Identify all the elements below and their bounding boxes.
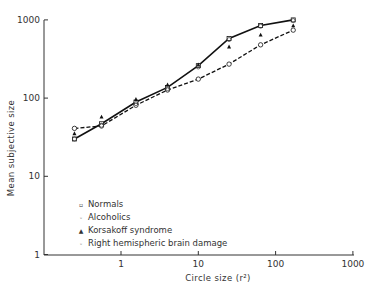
y-axis-title: Mean subjective size bbox=[6, 100, 16, 196]
data-point bbox=[72, 126, 76, 130]
x-tick-label: 10 bbox=[193, 259, 205, 269]
legend: ▫ Normals ◦ Alcoholics ▲ Korsakoff syndr… bbox=[77, 198, 227, 250]
data-point bbox=[259, 33, 263, 37]
data-point bbox=[291, 23, 295, 27]
x-tick-label: 1000 bbox=[341, 259, 364, 269]
legend-item-alcoholics: ◦ Alcoholics bbox=[77, 211, 227, 224]
circle-marker-icon: ◦ bbox=[77, 211, 85, 224]
legend-label: Normals bbox=[88, 198, 123, 211]
legend-item-right-hemispheric: ◦ Right hemispheric brain damage bbox=[77, 237, 227, 250]
data-point bbox=[227, 62, 231, 66]
triangle-marker-icon: ▲ bbox=[77, 224, 85, 237]
data-point bbox=[227, 45, 231, 49]
data-point bbox=[258, 43, 262, 47]
y-tick-label: 100 bbox=[23, 93, 40, 103]
x-tick-label: 100 bbox=[267, 259, 284, 269]
legend-label: Right hemispheric brain damage bbox=[88, 237, 227, 250]
dot-circle-marker-icon: ◦ bbox=[77, 237, 85, 250]
data-point bbox=[291, 28, 295, 32]
series-line-normals bbox=[74, 20, 293, 139]
y-tick-label: 1 bbox=[34, 250, 40, 260]
data-point bbox=[72, 131, 76, 135]
x-tick-label: 1 bbox=[118, 259, 124, 269]
data-point bbox=[196, 77, 200, 81]
data-point bbox=[100, 115, 104, 119]
y-ticks: 1101001000 bbox=[17, 15, 48, 260]
legend-label: Alcoholics bbox=[88, 211, 130, 224]
series-layer bbox=[72, 18, 295, 141]
x-ticks: 1101001000 bbox=[118, 251, 364, 269]
legend-item-normals: ▫ Normals bbox=[77, 198, 227, 211]
legend-item-korsakoff: ▲ Korsakoff syndrome bbox=[77, 224, 227, 237]
square-marker-icon: ▫ bbox=[77, 198, 85, 211]
y-tick-label: 10 bbox=[29, 171, 41, 181]
data-point bbox=[134, 97, 138, 101]
y-tick-label: 1000 bbox=[17, 15, 40, 25]
x-axis-title: Circle size (r²) bbox=[185, 273, 251, 283]
legend-label: Korsakoff syndrome bbox=[88, 224, 172, 237]
data-point bbox=[166, 83, 170, 87]
